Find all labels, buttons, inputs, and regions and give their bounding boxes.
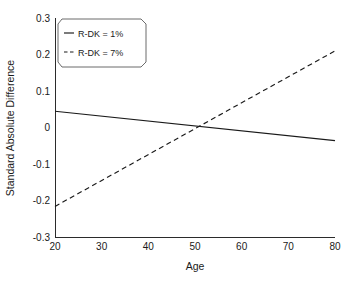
y-tick-label: -0.2 bbox=[33, 195, 51, 206]
x-tick-label: 40 bbox=[143, 241, 155, 252]
chart-figure: 0.3 0.2 0.1 0 -0.1 -0.2 -0.3 20 30 40 50… bbox=[0, 0, 348, 283]
x-axis-title: Age bbox=[186, 260, 205, 272]
y-tick-label: 0 bbox=[44, 122, 50, 133]
y-tick-label: 0.2 bbox=[36, 49, 50, 60]
y-axis-title: Standard Absolute Difference bbox=[4, 60, 16, 197]
x-tick-label: 20 bbox=[49, 241, 61, 252]
y-tick-label: -0.3 bbox=[33, 232, 51, 243]
legend-box bbox=[58, 19, 146, 67]
chart-legend: R-DK = 1% R-DK = 7% bbox=[58, 19, 146, 67]
series-line-r-dk-7pct bbox=[55, 51, 335, 206]
x-tick-label: 80 bbox=[329, 241, 341, 252]
y-tick-label: -0.1 bbox=[33, 159, 51, 170]
y-tick-label: 0.3 bbox=[36, 13, 50, 24]
line-chart-canvas: 0.3 0.2 0.1 0 -0.1 -0.2 -0.3 20 30 40 50… bbox=[0, 0, 348, 283]
x-tick-label: 30 bbox=[96, 241, 108, 252]
legend-label-r-dk-1pct: R-DK = 1% bbox=[78, 29, 123, 39]
x-tick-label: 70 bbox=[283, 241, 295, 252]
x-tick-label: 50 bbox=[189, 241, 201, 252]
y-tick-label: 0.1 bbox=[36, 86, 50, 97]
x-tick-label: 60 bbox=[236, 241, 248, 252]
series-line-r-dk-1pct bbox=[55, 111, 335, 140]
legend-label-r-dk-7pct: R-DK = 7% bbox=[78, 48, 123, 58]
